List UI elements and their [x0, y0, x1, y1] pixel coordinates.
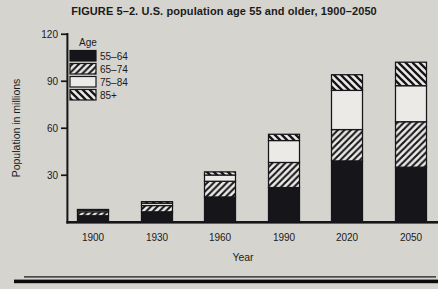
bar-1990-75–84	[269, 141, 300, 163]
bar-2020-75–84	[332, 90, 363, 129]
bar-1990-85+	[269, 134, 300, 140]
bar-1930-55–64	[142, 212, 173, 222]
legend-label-75-84: 75–84	[100, 77, 128, 88]
bar-1960-65–74	[205, 181, 236, 197]
y-tick-90	[61, 80, 67, 82]
figure-title: FIGURE 5–2. U.S. population age 55 and o…	[71, 5, 377, 17]
x-axis-labels: 1900 1930 1960 1990 2020 2050	[82, 232, 423, 243]
bar-1990-55–64	[269, 188, 300, 222]
bar-2050-85+	[396, 62, 427, 85]
bar-2020-85+	[332, 75, 363, 91]
bar-1900-55–64	[78, 216, 109, 222]
y-tick-120	[61, 33, 67, 35]
y-tick-60	[61, 127, 67, 129]
x-tick-label-2020: 2020	[336, 232, 359, 243]
bottom-rule-thick	[14, 280, 438, 284]
legend: Age 55–64 65–74 75–84 85+	[70, 37, 128, 101]
bars-group	[78, 62, 427, 222]
bottom-rule-thin	[24, 276, 436, 278]
bar-1990-65–74	[269, 162, 300, 187]
x-tick-label-1930: 1930	[146, 232, 169, 243]
legend-title: Age	[79, 37, 97, 48]
y-axis: 120 90 60 30 Population in millions	[10, 29, 68, 224]
bar-1900-85+	[78, 209, 109, 210]
chart-svg: FIGURE 5–2. U.S. population age 55 and o…	[0, 0, 438, 289]
y-tick-label-60: 60	[47, 123, 59, 134]
bar-2050-55–64	[396, 167, 427, 222]
legend-swatch-75-84	[70, 77, 96, 88]
legend-swatch-55-64	[70, 51, 96, 62]
bar-1930-65–74	[142, 206, 173, 212]
x-axis-title: Year	[232, 251, 254, 263]
legend-label-55-64: 55–64	[100, 51, 128, 62]
legend-label-65-74: 65–74	[100, 64, 128, 75]
x-tick-label-1960: 1960	[209, 232, 232, 243]
y-tick-30	[61, 174, 67, 176]
bar-2020-65–74	[332, 130, 363, 161]
y-tick-label-120: 120	[41, 29, 58, 40]
scanned-figure: FIGURE 5–2. U.S. population age 55 and o…	[0, 0, 438, 289]
bar-1930-85+	[142, 202, 173, 204]
bar-1960-55–64	[205, 197, 236, 222]
y-axis-title: Population in millions	[10, 79, 22, 178]
x-tick-label-1900: 1900	[82, 232, 105, 243]
x-axis-line	[66, 221, 438, 224]
legend-swatch-85plus	[70, 90, 96, 101]
bar-2050-65–74	[396, 122, 427, 167]
bar-2050-75–84	[396, 86, 427, 122]
x-tick-label-2050: 2050	[400, 232, 423, 243]
y-tick-label-30: 30	[47, 170, 59, 181]
bar-2020-55–64	[332, 161, 363, 222]
x-tick-label-1990: 1990	[273, 232, 296, 243]
legend-label-85plus: 85+	[100, 90, 117, 101]
bar-1960-75–84	[205, 175, 236, 181]
legend-swatch-65-74	[70, 64, 96, 75]
y-tick-label-90: 90	[47, 76, 59, 87]
bar-1960-85+	[205, 172, 236, 175]
